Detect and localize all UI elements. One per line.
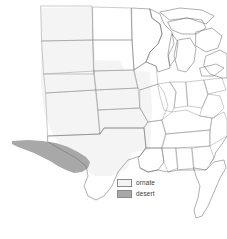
lake-superior-outline [160, 8, 214, 24]
state-kentucky [162, 110, 212, 134]
state-michigan-lower [174, 38, 196, 72]
state-tennessee [162, 130, 210, 148]
state-virginia-carolinas [210, 112, 227, 146]
range-map-figure: ornate desert [0, 0, 227, 239]
lake-erie-outline [200, 64, 224, 76]
state-illinois [158, 82, 176, 112]
state-michigan-upper [168, 18, 206, 34]
state-mississippi [162, 148, 178, 172]
atlantic-coastline [210, 136, 227, 164]
state-north-dakota [93, 7, 132, 40]
state-ohio [186, 80, 208, 108]
legend-label-ornate: ornate [136, 179, 155, 187]
state-florida [194, 160, 226, 218]
state-west-virginia [200, 94, 224, 118]
legend-swatch-desert-icon [117, 190, 132, 198]
state-indiana [170, 82, 188, 108]
legend-item-ornate: ornate [117, 178, 155, 187]
state-louisiana [138, 148, 164, 172]
state-pennsylvania [204, 78, 226, 94]
state-wisconsin [146, 9, 174, 72]
legend-item-desert: desert [117, 189, 155, 198]
state-georgia [192, 146, 214, 170]
legend-swatch-ornate-icon [117, 179, 132, 187]
us-map-svg [0, 0, 227, 239]
state-minnesota [132, 8, 162, 70]
legend-label-desert: desert [136, 190, 155, 198]
map-legend: ornate desert [117, 178, 155, 198]
state-alabama [176, 148, 194, 170]
